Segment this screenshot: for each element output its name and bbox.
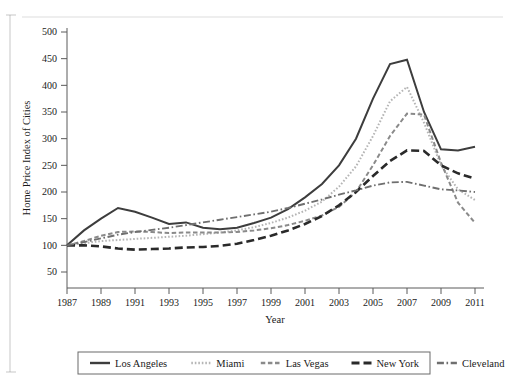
legend-label-los-angeles: Los Angeles [115, 358, 167, 369]
x-tick-label: 1997 [227, 297, 247, 308]
x-tick-label: 1993 [159, 297, 179, 308]
x-tick-label: 2007 [397, 297, 417, 308]
chart-legend: Los AngelesMiamiLas VegasNew YorkClevela… [78, 352, 505, 374]
legend-items: Los AngelesMiamiLas VegasNew YorkClevela… [90, 358, 505, 369]
series-line-new-york [67, 150, 475, 249]
legend-label-new-york: New York [377, 358, 420, 369]
y-tick-label: 250 [42, 160, 57, 171]
x-tick-label: 1991 [125, 297, 145, 308]
series-line-las-vegas [67, 114, 475, 246]
figure-top-caption [0, 0, 513, 14]
x-tick-label: 1989 [91, 297, 111, 308]
series-line-los-angeles [67, 60, 475, 246]
y-tick-label: 200 [42, 186, 57, 197]
x-tick-label: 2003 [329, 297, 349, 308]
x-tick-label: 1987 [57, 297, 77, 308]
line-chart: 50100150200250300350400450500 1987198919… [0, 0, 513, 387]
x-tick-label: 2009 [431, 297, 451, 308]
x-tick-label: 2011 [465, 297, 485, 308]
legend-label-miami: Miami [216, 358, 244, 369]
y-axis-title: Home Price Index of Cities [21, 101, 32, 216]
y-tick-label: 150 [42, 213, 57, 224]
series-line-miami [67, 87, 475, 245]
legend-label-cleveland: Cleveland [462, 358, 505, 369]
y-tick-label: 100 [42, 240, 57, 251]
x-tick-label: 1999 [261, 297, 281, 308]
y-tick-label: 400 [42, 80, 57, 91]
chart-figure: 50100150200250300350400450500 1987198919… [0, 0, 513, 387]
x-axis: 1987198919911993199519971999200120032005… [57, 288, 485, 308]
x-tick-label: 2005 [363, 297, 383, 308]
y-tick-label: 350 [42, 106, 57, 117]
y-axis: 50100150200250300350400450500 [42, 26, 67, 277]
legend-label-las-vegas: Las Vegas [286, 358, 329, 369]
x-tick-label: 2001 [295, 297, 315, 308]
y-tick-label: 500 [42, 26, 57, 37]
x-tick-label: 1995 [193, 297, 213, 308]
y-tick-label: 300 [42, 133, 57, 144]
y-tick-label: 450 [42, 53, 57, 64]
series-layer [67, 60, 475, 250]
figure-frame [6, 15, 503, 372]
y-tick-label: 50 [47, 266, 57, 277]
x-axis-title: Year [265, 314, 285, 325]
